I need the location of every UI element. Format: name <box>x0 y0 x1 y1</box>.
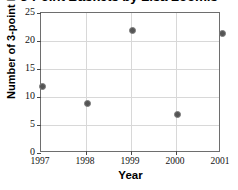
y-axis-tick <box>37 41 41 42</box>
x-axis-tick <box>131 151 132 155</box>
x-axis-tick-label: 1999 <box>110 157 150 167</box>
x-axis-tick-label: 1998 <box>65 157 105 167</box>
gridline-vertical <box>86 13 87 151</box>
data-point <box>84 100 91 107</box>
gridline-horizontal <box>41 125 219 126</box>
data-point <box>174 111 181 118</box>
y-axis-tick-label: 5 <box>13 119 35 129</box>
data-point <box>129 27 136 34</box>
data-point <box>219 30 226 37</box>
gridline-vertical <box>176 13 177 151</box>
y-axis-tick <box>37 125 41 126</box>
gridline-horizontal <box>41 41 219 42</box>
y-axis-tick <box>37 13 41 14</box>
y-axis-tick-label: 15 <box>13 63 35 73</box>
plot-area <box>40 12 220 152</box>
y-axis-tick-label: 25 <box>13 7 35 17</box>
y-axis-tick-label: 20 <box>13 35 35 45</box>
chart-title: 3-Point Baskets by Lisa Loomis <box>0 0 238 4</box>
y-axis-tick <box>37 153 41 154</box>
x-axis-tick <box>176 151 177 155</box>
y-axis-tick-label: 10 <box>13 91 35 101</box>
x-axis-tick-label: 2000 <box>155 157 195 167</box>
gridline-horizontal <box>41 97 219 98</box>
x-axis-tick-label: 1997 <box>20 157 60 167</box>
data-point <box>39 83 46 90</box>
x-axis-title: Year <box>40 169 221 181</box>
y-axis-tick <box>37 97 41 98</box>
y-axis-tick <box>37 69 41 70</box>
x-axis-tick-label: 2001 <box>200 157 238 167</box>
x-axis-tick <box>86 151 87 155</box>
scatter-chart: 3-Point Baskets by Lisa Loomis Number of… <box>0 0 238 190</box>
gridline-horizontal <box>41 69 219 70</box>
